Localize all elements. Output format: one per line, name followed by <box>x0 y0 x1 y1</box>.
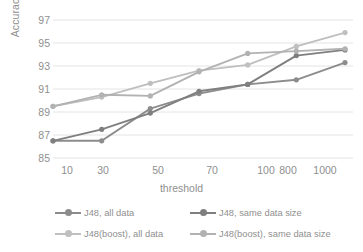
series-lines <box>50 30 347 143</box>
data-point <box>148 93 153 98</box>
legend-item-j48-same-data-size[interactable]: J48, same data size <box>190 208 302 218</box>
data-point <box>294 77 299 82</box>
x-tick-label: 10 <box>47 165 87 176</box>
data-point <box>50 138 55 143</box>
legend-line-marker-icon <box>190 208 216 218</box>
x-tick-label: 70 <box>192 165 232 176</box>
legend-label: J48, same data size <box>219 208 302 218</box>
legend-item-j48boost-same-data-size[interactable]: J48(boost), same data size <box>190 229 331 239</box>
legend-label: J48, all data <box>84 208 134 218</box>
data-point <box>99 92 104 97</box>
data-point <box>294 49 299 54</box>
x-axis-title: threshold <box>0 182 363 194</box>
data-point <box>148 106 153 111</box>
x-tick-label: 30 <box>83 165 123 176</box>
data-point <box>148 81 153 86</box>
data-point <box>196 69 201 74</box>
data-point <box>245 62 250 67</box>
plot-area: Accuracy(%) 97 95 93 91 89 87 85 10 30 5… <box>0 0 363 200</box>
data-point <box>148 111 153 116</box>
legend-item-j48-all-data[interactable]: J48, all data <box>55 208 134 218</box>
data-point <box>245 51 250 56</box>
x-tick-label: 50 <box>138 165 178 176</box>
legend-item-j48boost-all-data[interactable]: J48(boost), all data <box>55 229 163 239</box>
legend-line-marker-icon <box>55 229 81 239</box>
chart-legend: J48, all data J48, same data size J48(bo… <box>0 205 363 251</box>
x-tick-label: 1000 <box>305 165 345 176</box>
accuracy-vs-threshold-chart: Accuracy(%) 97 95 93 91 89 87 85 10 30 5… <box>0 0 363 252</box>
gridlines <box>53 20 353 158</box>
data-point <box>245 82 250 87</box>
legend-label: J48(boost), same data size <box>219 229 331 239</box>
data-point <box>294 53 299 58</box>
data-point <box>342 60 347 65</box>
legend-line-marker-icon <box>190 229 216 239</box>
data-point <box>294 44 299 49</box>
data-point <box>50 104 55 109</box>
data-point <box>342 46 347 51</box>
legend-label: J48(boost), all data <box>84 229 163 239</box>
x-tick-label: 800 <box>268 165 308 176</box>
data-point <box>99 138 104 143</box>
data-point <box>196 89 201 94</box>
data-point <box>99 127 104 132</box>
legend-line-marker-icon <box>55 208 81 218</box>
data-point <box>342 30 347 35</box>
